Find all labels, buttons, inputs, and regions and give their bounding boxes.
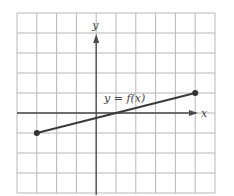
right-endpoint (192, 90, 198, 96)
y-axis-arrow-icon (93, 34, 99, 43)
function-graph: x y y = f(x) (0, 0, 234, 196)
function-label: y = f(x) (103, 92, 145, 105)
y-axis-label: y (91, 19, 99, 32)
x-axis-label: x (201, 107, 208, 120)
left-endpoint (34, 130, 40, 136)
x-axis-arrow-icon (189, 110, 198, 116)
